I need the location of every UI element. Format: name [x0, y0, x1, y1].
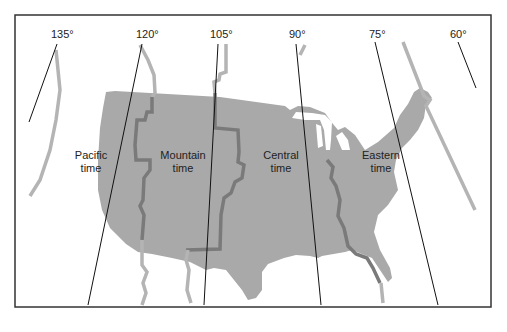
- zone-suffix: time: [153, 162, 213, 175]
- boundary-central-eastern-south: [381, 283, 383, 303]
- zone-name: Central: [256, 149, 306, 162]
- meridian-label-120: 120°: [136, 28, 159, 40]
- meridian-label-75: 75°: [369, 28, 386, 40]
- meridian-label-105: 105°: [210, 28, 233, 40]
- zone-suffix: time: [256, 162, 306, 175]
- zone-name: Mountain: [153, 149, 213, 162]
- zone-label-central: Central time: [256, 149, 306, 175]
- zone-suffix: time: [66, 162, 116, 175]
- meridian-label-60: 60°: [450, 28, 467, 40]
- zone-suffix: time: [356, 162, 406, 175]
- zone-name: Eastern: [356, 149, 406, 162]
- zone-label-pacific: Pacific time: [66, 149, 116, 175]
- zone-label-eastern: Eastern time: [356, 149, 406, 175]
- meridian-label-90: 90°: [289, 28, 306, 40]
- meridian-label-135: 135°: [51, 28, 74, 40]
- zone-label-mountain: Mountain time: [153, 149, 213, 175]
- zone-name: Pacific: [66, 149, 116, 162]
